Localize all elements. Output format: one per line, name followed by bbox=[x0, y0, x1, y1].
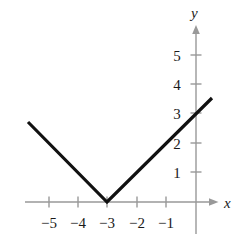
x-tick-label-minus2: −2 bbox=[129, 215, 145, 231]
abs-value-curve bbox=[28, 98, 212, 202]
x-tick-label-minus1: −1 bbox=[158, 215, 174, 231]
y-tick-label-5: 5 bbox=[173, 48, 181, 64]
x-tick-label-minus5: −5 bbox=[41, 215, 57, 231]
x-axis-arrow-icon bbox=[209, 198, 219, 206]
y-tick-label-1: 1 bbox=[173, 165, 181, 181]
x-tick-label-minus3: −3 bbox=[99, 215, 115, 231]
x-tick-label-minus4: −4 bbox=[70, 215, 86, 231]
graph-figure: −5 −4 −3 −2 −1 5 4 3 2 1 x y bbox=[0, 0, 236, 243]
y-tick-label-3: 3 bbox=[173, 106, 181, 122]
y-axis-label: y bbox=[189, 5, 198, 21]
y-tick-label-4: 4 bbox=[173, 77, 181, 93]
x-axis-label: x bbox=[223, 195, 231, 211]
y-axis-arrow-icon bbox=[192, 25, 200, 34]
y-tick-label-2: 2 bbox=[173, 136, 181, 152]
coordinate-plane-svg: −5 −4 −3 −2 −1 5 4 3 2 1 x y bbox=[0, 0, 236, 243]
